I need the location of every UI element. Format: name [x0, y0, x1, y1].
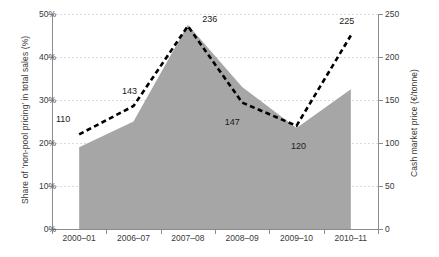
- right-tick-label: 150: [385, 95, 399, 105]
- x-tick-label: 2007–08: [171, 233, 204, 243]
- price-data-label: 225: [339, 16, 354, 26]
- left-tick-mark: [48, 143, 52, 144]
- right-tick-label: 250: [385, 9, 399, 19]
- x-tick-mark: [215, 230, 216, 234]
- x-tick-label: 2008–09: [226, 233, 259, 243]
- area-series-non-pool-share: [79, 25, 351, 229]
- right-tick-label: 200: [385, 52, 399, 62]
- x-tick-mark: [378, 230, 379, 234]
- chart-title-strip: [0, 0, 439, 9]
- right-tick-mark: [379, 100, 383, 101]
- left-tick-mark: [48, 14, 52, 15]
- chart-container: Share of ‘non-pool pricing’ in total sal…: [0, 0, 439, 257]
- right-tick-mark: [379, 229, 383, 230]
- price-data-label: 110: [56, 114, 70, 124]
- x-tick-label: 2000–01: [63, 233, 96, 243]
- left-axis-line: [52, 14, 53, 230]
- left-axis-title: Share of ‘non-pool pricing’ in total sal…: [20, 54, 30, 204]
- left-tick-mark: [48, 100, 52, 101]
- x-tick-mark: [52, 230, 53, 234]
- plot-area: [52, 14, 378, 229]
- price-data-label: 120: [291, 141, 306, 151]
- x-tick-label: 2006–07: [117, 233, 150, 243]
- right-tick-mark: [379, 14, 383, 15]
- price-data-label: 236: [202, 14, 217, 24]
- right-tick-label: 0: [385, 224, 390, 234]
- x-tick-mark: [269, 230, 270, 234]
- right-tick-mark: [379, 186, 383, 187]
- x-tick-mark: [324, 230, 325, 234]
- chart-svg: [52, 14, 378, 229]
- right-tick-label: 50: [385, 181, 394, 191]
- x-tick-label: 2010–11: [335, 233, 367, 243]
- x-tick-mark: [106, 230, 107, 234]
- left-tick-mark: [48, 57, 52, 58]
- price-data-label: 143: [122, 86, 137, 96]
- right-tick-mark: [379, 143, 383, 144]
- price-data-label: 147: [225, 117, 240, 127]
- right-axis-line: [378, 14, 379, 230]
- right-axis-title: Cash market price (€/tonne): [409, 48, 419, 198]
- right-tick-label: 100: [385, 138, 399, 148]
- x-tick-label: 2009–10: [280, 233, 313, 243]
- x-tick-mark: [161, 230, 162, 234]
- left-tick-mark: [48, 186, 52, 187]
- right-tick-mark: [379, 57, 383, 58]
